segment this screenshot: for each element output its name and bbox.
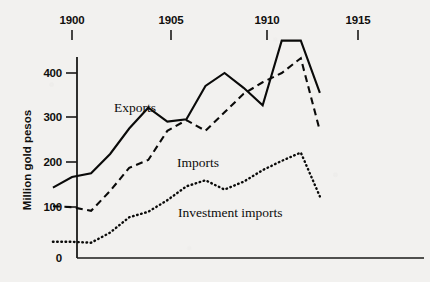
- y-tick-label-300: 300: [43, 111, 62, 123]
- x-tick-label-1915: 1915: [346, 14, 372, 26]
- chart-canvas: Million gold pesos 1900 1905 1910 1915 4…: [0, 0, 430, 282]
- y-axis-title-text: Million gold pesos: [21, 110, 33, 210]
- y-axis-title: Million gold pesos: [21, 110, 33, 210]
- x-axis-ticks: 1900 1905 1910 1915: [60, 14, 372, 40]
- x-tick-label-1910: 1910: [255, 14, 280, 26]
- y-tick-label-400: 400: [43, 67, 62, 79]
- series-label-investment-imports: Investment imports: [178, 205, 283, 220]
- y-tick-label-0: 0: [56, 252, 62, 264]
- series-label-imports: Imports: [177, 155, 219, 170]
- series-label-exports: Exports: [114, 100, 156, 115]
- y-axis-ticks: 400 300 200 100 0: [43, 67, 77, 264]
- series-line-imports: [53, 58, 320, 211]
- chart-figure: Million gold pesos 1900 1905 1910 1915 4…: [0, 0, 430, 282]
- y-tick-label-200: 200: [43, 156, 62, 168]
- x-tick-label-1905: 1905: [159, 14, 185, 26]
- x-tick-label-1900: 1900: [60, 14, 85, 26]
